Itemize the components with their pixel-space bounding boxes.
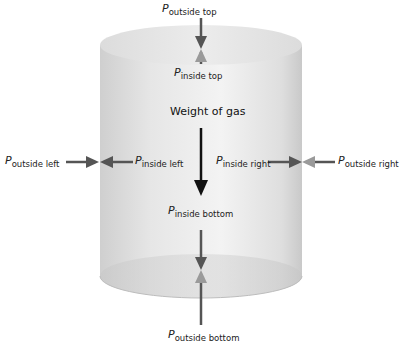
pressure-symbol: P — [5, 154, 12, 167]
pressure-subscript: outside right — [345, 159, 399, 169]
label-outside-right: Poutside right — [338, 155, 399, 169]
label-weight-of-gas: Weight of gas — [170, 105, 245, 118]
pressure-symbol: P — [135, 154, 142, 167]
label-outside-bottom: Poutside bottom — [168, 329, 239, 343]
label-inside-top: Pinside top — [174, 67, 222, 81]
label-inside-left: Pinside left — [135, 155, 183, 169]
pressure-subscript: outside left — [12, 159, 60, 169]
pressure-subscript: inside top — [181, 71, 223, 81]
pressure-symbol: P — [168, 328, 175, 341]
pressure-symbol: P — [168, 204, 175, 217]
pressure-symbol: P — [162, 2, 169, 15]
cylinder-figure — [0, 0, 401, 354]
label-outside-left: Poutside left — [5, 155, 59, 169]
pressure-subscript: outside bottom — [175, 333, 240, 343]
pressure-subscript: inside bottom — [175, 209, 234, 219]
label-outside-top: Poutside top — [162, 3, 217, 17]
label-inside-right: Pinside right — [216, 155, 270, 169]
label-inside-bottom: Pinside bottom — [168, 205, 233, 219]
pressure-symbol: P — [338, 154, 345, 167]
pressure-symbol: P — [174, 66, 181, 79]
gas-pressure-diagram: Poutside top Pinside top Weight of gas P… — [0, 0, 401, 354]
pressure-subscript: outside top — [169, 7, 217, 17]
pressure-subscript: inside left — [142, 159, 184, 169]
pressure-subscript: inside right — [223, 159, 271, 169]
arrow-outside-right — [302, 156, 335, 168]
pressure-symbol: P — [216, 154, 223, 167]
arrow-outside-left — [66, 156, 99, 168]
